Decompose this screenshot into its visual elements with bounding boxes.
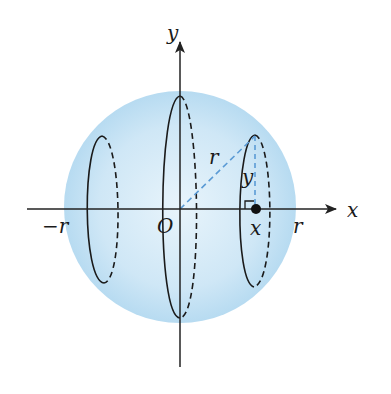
- radius-label: r: [209, 145, 220, 169]
- height-y-label: y: [241, 165, 254, 189]
- point-x-dot: [251, 204, 261, 214]
- point-x-label: x: [250, 216, 261, 240]
- positive-r-label: r: [293, 214, 304, 238]
- y-axis-label: y: [166, 21, 179, 45]
- sphere-diagram: y x O −r r r y x: [0, 0, 391, 394]
- origin-label: O: [157, 214, 173, 238]
- negative-r-label: −r: [42, 214, 70, 238]
- x-axis-label: x: [347, 198, 358, 222]
